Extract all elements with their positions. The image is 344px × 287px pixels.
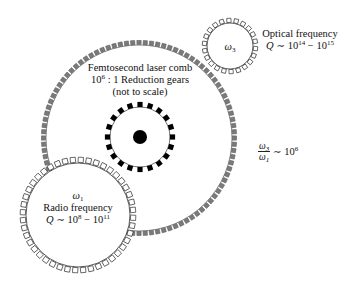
comb-gear-tooth: [43, 117, 48, 122]
ratio-numerator: ω3: [258, 141, 270, 152]
comb-label: Femtosecond laser comb 106 : 1 Reduction…: [78, 62, 202, 98]
comb-gear-tooth: [44, 111, 49, 116]
comb-gear-tooth: [143, 40, 147, 44]
comb-gear-tooth: [44, 160, 49, 165]
optical-gear-tooth: [227, 18, 231, 22]
radio-gear-tooth: [78, 157, 83, 162]
inner-gear-tooth: [155, 160, 162, 167]
comb-gear-tooth: [232, 142, 236, 146]
comb-gear-tooth: [112, 43, 117, 48]
comb-gear-tooth: [143, 231, 147, 235]
radio-gear-tooth: [129, 199, 135, 205]
radio-gear-tooth: [62, 158, 68, 164]
comb-gear-tooth: [42, 123, 47, 128]
comb-gear-tooth: [131, 40, 135, 44]
inner-gear-tooth: [117, 107, 124, 114]
comb-gear-tooth: [199, 207, 205, 213]
inner-gear-tooth: [127, 103, 134, 110]
radio-gear-tooth: [20, 210, 25, 215]
optical-gear-tooth: [221, 68, 226, 73]
inner-gear-tooth: [106, 124, 113, 131]
comb-label-line2: 106 : 1 Reduction gears: [78, 74, 202, 86]
comb-gear-tooth: [212, 193, 218, 199]
optical-gear-tooth: [229, 69, 233, 73]
radio-gear-tooth: [129, 223, 135, 229]
inner-gear-tooth: [168, 144, 175, 151]
radio-gear-tooth: [21, 225, 27, 231]
comb-gear-tooth: [155, 42, 160, 47]
optical-gear-tooth: [236, 68, 241, 73]
comb-gear-tooth: [137, 40, 141, 44]
comb-gear-tooth: [194, 211, 200, 217]
comb-gear-tooth: [208, 72, 214, 78]
comb-gear-tooth: [229, 160, 234, 165]
radio-gear-tooth: [70, 157, 76, 163]
comb-gear-tooth: [231, 123, 236, 128]
comb-gear-tooth: [69, 68, 75, 74]
ratio-label: ω3 ω1 ∼ 106: [258, 141, 298, 162]
comb-gear-tooth: [161, 43, 166, 48]
inner-gear-tooth: [110, 114, 117, 121]
comb-gear-tooth: [204, 203, 210, 209]
comb-gear-tooth: [41, 142, 45, 146]
optical-gear-tooth: [219, 19, 224, 24]
comb-gear-tooth: [232, 130, 236, 134]
radio-symbol: ω1: [28, 190, 128, 202]
comb-gear-tooth: [42, 148, 47, 153]
inner-gear-tooth: [163, 114, 170, 121]
radio-gear-tooth: [73, 267, 78, 272]
radio-gear-tooth: [86, 158, 92, 164]
radio-q-range: Q ∼ 108 − 1011: [28, 214, 128, 226]
optical-q-range: Q ∼ 1014 − 1015: [256, 40, 344, 52]
inner-gear-tooth: [137, 167, 142, 172]
comb-gear-tooth: [64, 72, 70, 78]
inner-gear-tooth: [147, 103, 154, 110]
comb-gear-tooth: [118, 42, 123, 47]
comb-gear-tooth: [208, 198, 214, 204]
comb-gear-tooth: [60, 77, 66, 83]
inner-gear-tooth: [163, 152, 170, 159]
radio-gear-tooth: [130, 207, 136, 213]
optical-gear-tooth: [234, 19, 239, 24]
radio-gear-tooth: [80, 267, 86, 273]
optical-symbol: ω3: [220, 41, 240, 53]
inner-gear-tooth: [155, 107, 162, 114]
optical-gear-tooth: [202, 48, 207, 53]
radio-gear-tooth: [64, 266, 70, 272]
ratio-fraction: ω3 ω1: [258, 141, 270, 162]
comb-gear-tooth: [124, 41, 129, 46]
inner-gear-hub: [133, 130, 147, 144]
radio-gear-tooth: [88, 266, 94, 272]
comb-gear-tooth: [149, 230, 154, 235]
comb-gear-tooth: [231, 148, 236, 153]
ratio-value: ∼ 106: [270, 146, 298, 157]
radio-gear-tooth: [130, 215, 135, 220]
inner-gear-tooth: [170, 134, 175, 139]
comb-gear-tooth: [41, 136, 45, 140]
inner-reduction-gear: [105, 102, 175, 172]
radio-gear-tooth: [20, 217, 26, 223]
inner-gear-tooth: [105, 134, 110, 139]
radio-label: ω1 Radio frequency Q ∼ 108 − 1011: [28, 190, 128, 226]
inner-gear-tooth: [110, 152, 117, 159]
comb-label-line3: (not to scale): [78, 86, 202, 98]
comb-gear-tooth: [155, 229, 160, 234]
comb-gear-tooth: [230, 154, 235, 159]
inner-gear-tooth: [117, 160, 124, 167]
inner-gear-tooth: [127, 165, 134, 172]
ratio-denominator: ω1: [258, 152, 270, 162]
comb-gear-tooth: [149, 41, 154, 46]
comb-gear-tooth: [204, 68, 210, 74]
radio-gear-tooth: [21, 201, 27, 207]
comb-gear-tooth: [230, 117, 235, 122]
comb-gear-tooth: [43, 154, 48, 159]
comb-gear-tooth: [137, 231, 141, 235]
comb-gear-tooth: [232, 136, 236, 140]
optical-gear-tooth: [202, 41, 207, 46]
inner-gear-tooth: [168, 124, 175, 131]
comb-gear-tooth: [41, 130, 45, 134]
comb-gear-tooth: [212, 77, 218, 83]
comb-gear-tooth: [161, 228, 166, 233]
optical-label: Optical frequency Q ∼ 1014 − 1015: [256, 28, 344, 52]
inner-gear-tooth: [147, 165, 154, 172]
